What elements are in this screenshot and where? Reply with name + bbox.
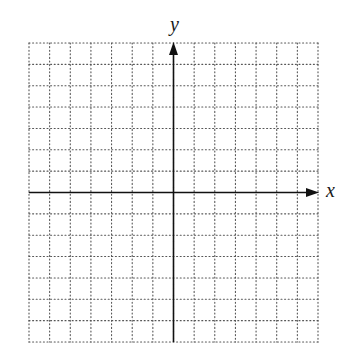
coordinate-grid	[0, 0, 351, 363]
y-axis-arrow-icon	[169, 42, 178, 55]
x-axis-label: x	[326, 180, 335, 200]
y-axis-label: y	[170, 14, 179, 34]
x-axis-arrow-icon	[306, 188, 319, 197]
